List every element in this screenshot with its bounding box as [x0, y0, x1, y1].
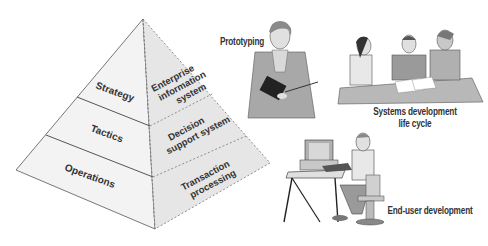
sdlc-label-line-2: life cycle: [370, 118, 460, 129]
pyramid-left-face: [16, 19, 155, 229]
sdlc-label-line-1: Systems development: [370, 106, 460, 117]
sdlc-meeting-icon: [338, 30, 483, 104]
pyramid: Strategy Tactics Operations Enterprise i…: [16, 19, 270, 229]
end-user-label: End-user development: [384, 205, 476, 216]
prototyping-label: Prototyping: [217, 36, 266, 47]
diagram-root: Strategy Tactics Operations Enterprise i…: [0, 0, 488, 246]
end-user-at-computer-icon: [284, 133, 384, 225]
